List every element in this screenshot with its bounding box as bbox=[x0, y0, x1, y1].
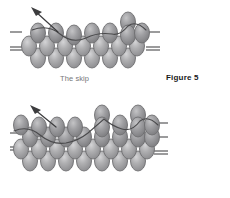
figure-5-label: Figure 5 bbox=[166, 73, 199, 82]
figure-5-bead-diagram bbox=[8, 2, 168, 72]
figure-6-bead-diagram bbox=[8, 101, 178, 173]
figure-6-block: Skip and step up Figure 6 bbox=[0, 99, 230, 198]
figure-5-block: The skip Figure 5 bbox=[0, 0, 230, 99]
figure-5-caption: The skip bbox=[60, 74, 89, 83]
